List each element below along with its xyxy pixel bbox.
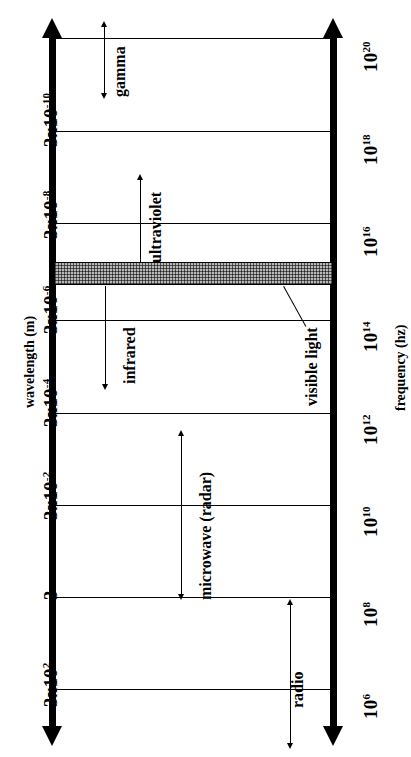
gamma-extent-arrow-bottom xyxy=(101,93,107,99)
left-tick-label-6: 3 xyxy=(40,590,62,600)
band-label-ultraviolet: ultraviolet xyxy=(147,192,165,263)
visible-light-band xyxy=(55,262,332,285)
band-label-visible-light: visible light xyxy=(303,327,321,406)
gridline-1e8 xyxy=(55,597,332,598)
left-tick-label-1: 3x10-10 xyxy=(40,93,62,147)
gridline-1e16 xyxy=(55,223,332,224)
right-tick-label-1: 1020 xyxy=(360,41,382,72)
left-tick-label-3: 3x10-6 xyxy=(40,286,62,334)
gridline-1e18 xyxy=(55,131,332,132)
right-axis-arrow-up xyxy=(323,18,343,38)
band-label-radio: radio xyxy=(289,672,307,708)
left-tick-label-4: 3x10-4 xyxy=(40,379,62,427)
right-tick-label-8: 106 xyxy=(360,694,382,719)
left-tick-label-5: 3x10-2 xyxy=(40,472,62,520)
gridline-1e20 xyxy=(55,38,332,39)
gridline-1e14 xyxy=(55,320,332,321)
left-axis-arrow-up xyxy=(42,18,62,38)
right-tick-label-2: 1018 xyxy=(360,134,382,165)
band-label-microwave: microwave (radar) xyxy=(197,472,215,600)
left-tick-label-2: 3x10-8 xyxy=(40,191,62,239)
right-axis-bar xyxy=(330,36,337,726)
electromagnetic-spectrum-figure: 3x10-10 3x10-8 3x10-6 3x10-4 3x10-2 3 3x… xyxy=(0,0,411,757)
band-label-gamma: gamma xyxy=(111,46,129,97)
ultraviolet-extent-line xyxy=(140,178,141,262)
left-axis-arrow-down xyxy=(42,726,62,746)
left-axis-title: wavelength (m) xyxy=(22,316,38,408)
microwave-extent-line xyxy=(181,434,182,598)
right-tick-label-7: 108 xyxy=(360,602,382,627)
right-axis-title: frequency (hz) xyxy=(393,325,409,411)
right-tick-label-5: 1012 xyxy=(360,414,382,445)
infrared-extent-arrow-bottom xyxy=(102,384,108,390)
gridline-1e10 xyxy=(55,505,332,506)
radio-extent-arrow-bottom xyxy=(287,743,293,749)
gamma-extent-line xyxy=(104,25,105,97)
left-tick-label-7: 3x102 xyxy=(40,662,62,707)
infrared-extent-line xyxy=(105,286,106,384)
gridline-1e12 xyxy=(55,413,332,414)
right-tick-label-4: 1014 xyxy=(360,321,382,352)
microwave-extent-arrow-bottom xyxy=(178,594,184,600)
right-tick-label-6: 1010 xyxy=(360,506,382,537)
band-label-infrared: infrared xyxy=(121,327,139,384)
right-tick-label-3: 1016 xyxy=(360,226,382,257)
right-axis-arrow-down xyxy=(323,726,343,746)
